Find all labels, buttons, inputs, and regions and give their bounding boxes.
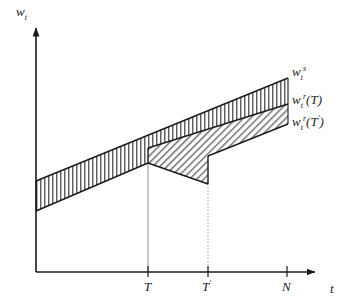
x-axis-label: t — [330, 281, 334, 297]
y-axis-label: wt — [16, 4, 27, 22]
x-tick-label-T: T — [144, 279, 151, 295]
curve-label-w-r-T-prime: wtr(T′) — [292, 114, 324, 132]
curve-label-w-s: wts — [292, 64, 306, 82]
x-tick-label-N: N — [282, 279, 291, 295]
curve-label-w-r-T: wtr(T) — [292, 92, 322, 110]
x-tick-label-T-prime: T′ — [202, 279, 211, 295]
plot-canvas — [0, 0, 348, 307]
wage-profile-figure: wt t wts wtr(T) wtr(T′) T T′ N — [0, 0, 348, 307]
